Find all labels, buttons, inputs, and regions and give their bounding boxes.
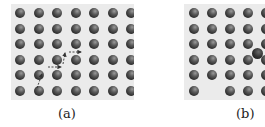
diffusion-path-arrows	[0, 0, 265, 127]
